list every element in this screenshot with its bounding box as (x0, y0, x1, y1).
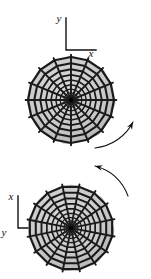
figure-root: y x x y (0, 0, 151, 279)
lower-axis-y-label: y (1, 226, 7, 238)
upper-disk-render (26, 55, 117, 146)
upper-axis-y-label: y (56, 12, 62, 24)
web-hub-core (69, 226, 73, 230)
upper-web-disk (26, 55, 117, 146)
lower-axis-x-label: x (8, 190, 14, 202)
web-hub-core (69, 98, 73, 102)
diagram-canvas: y x x y (0, 0, 151, 279)
